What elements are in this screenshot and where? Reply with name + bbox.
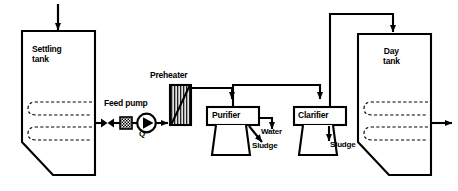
settling-tank-label-line2: tank [32, 54, 49, 64]
preheater [170, 85, 191, 125]
feed-pump-flow-label: Q [139, 130, 145, 139]
flow-diagram-canvas [0, 0, 458, 191]
purifier-water-label: Water [261, 128, 282, 137]
purifier-sludge-label: Sludge [252, 142, 277, 151]
strainer-icon [120, 117, 132, 129]
clarifier-label: Clarifier [298, 111, 328, 121]
day-tank-label-line1: Day [384, 46, 399, 56]
clarifier-sludge-label: Sludge [330, 141, 355, 150]
settling-tank-label-line1: Settling [32, 44, 62, 54]
purifier-to-clarifier-line [233, 85, 320, 107]
feed-pump-label: Feed pump [104, 99, 148, 109]
purifier-bowl [212, 125, 250, 155]
valve-icon [101, 119, 114, 128]
settling-tank-label: Settlingtank [32, 45, 62, 64]
day-tank-label: Daytank [383, 47, 400, 66]
day-tank-label-line2: tank [383, 56, 400, 66]
preheater-label: Preheater [150, 71, 187, 81]
purifier-label: Purifier [212, 111, 240, 121]
preheater-to-purifier-line [191, 88, 232, 99]
process-flow-diagram: Settlingtank Feed pump Q Preheater Purif… [0, 0, 458, 191]
